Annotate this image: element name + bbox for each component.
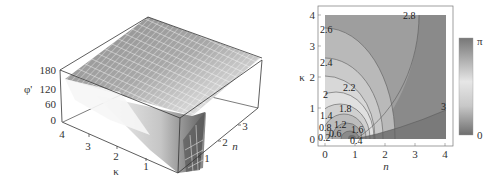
x-tick: 4 <box>442 148 448 160</box>
figure: 180 120 60 0 φ' 4 3 2 1 κ <box>0 0 504 185</box>
kappa-axis-label: κ <box>113 165 119 177</box>
n-tick: 1 <box>204 152 210 164</box>
contour-label: 2.4 <box>320 57 333 68</box>
contour-label: 3 <box>441 101 446 112</box>
contour-x-axis: 0 1 2 3 4 n <box>322 148 448 172</box>
z-tick: 180 <box>40 64 57 76</box>
x-tick: 1 <box>352 148 358 160</box>
colorbar-max-label: π <box>477 35 483 47</box>
z-tick: 0 <box>51 114 57 126</box>
surface-plot: 180 120 60 0 φ' 4 3 2 1 κ <box>24 17 262 177</box>
kappa-axis: 4 3 2 1 κ <box>59 128 149 177</box>
contour-label: 0.2 <box>318 132 331 143</box>
z-tick: 120 <box>40 83 57 95</box>
x-tick: 0 <box>322 148 328 160</box>
x-tick: 3 <box>412 148 418 160</box>
colorbar-min-label: 0 <box>477 129 483 141</box>
contour-label: 1.4 <box>320 110 333 121</box>
x-axis-label: n <box>383 160 389 172</box>
contour-label: 2 <box>323 89 328 100</box>
contour-label: 0.4 <box>350 135 363 146</box>
y-tick: 2 <box>310 71 316 83</box>
contour-label: 2.6 <box>320 24 333 35</box>
kappa-tick: 1 <box>143 160 149 172</box>
x-tick: 2 <box>382 148 388 160</box>
contour-label: 2.8 <box>403 10 416 21</box>
y-tick: 3 <box>310 40 316 52</box>
colorbar: π 0 <box>459 35 483 141</box>
contour-label: 1.8 <box>339 103 352 114</box>
y-tick: 4 <box>310 9 316 21</box>
contour-label: 0.6 <box>329 128 342 139</box>
kappa-tick: 2 <box>113 150 119 162</box>
contour-label: 1.6 <box>351 124 364 135</box>
z-tick: 60 <box>45 98 57 110</box>
z-axis-label: φ' <box>24 83 32 95</box>
y-tick: 0 <box>310 133 316 145</box>
contour-plot: 2.8 2.6 2.4 2.2 2 1.8 1.4 1.2 0.8 0.6 1.… <box>255 6 483 185</box>
n-axis: 1 2 3 n <box>198 120 248 164</box>
n-tick: 2 <box>222 136 228 148</box>
z-axis: 180 120 60 0 φ' <box>24 64 57 126</box>
y-tick: 1 <box>310 102 316 114</box>
y-axis-label: κ <box>299 71 305 83</box>
contour-y-axis: 0 1 2 3 4 κ <box>299 9 315 145</box>
n-tick: 3 <box>242 120 248 132</box>
contour-label: 2.2 <box>343 82 356 93</box>
kappa-tick: 3 <box>85 140 91 152</box>
n-axis-label: n <box>232 140 238 152</box>
kappa-tick: 4 <box>59 128 65 140</box>
